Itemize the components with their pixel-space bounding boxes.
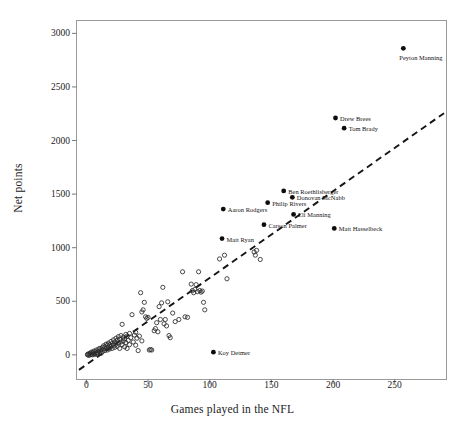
x-tick-100: 100	[203, 380, 217, 390]
point-label-aaron-rodgers: Aaron Rodgers	[228, 206, 268, 213]
x-axis-tick-marks	[86, 380, 394, 385]
data-point-eli-manning	[291, 212, 296, 217]
y-tick-2000: 2000	[36, 136, 70, 146]
point-label-koy-detmer: Koy Detmer	[218, 349, 250, 356]
y-tick-3000: 3000	[36, 28, 70, 38]
point-label-matt-ryan: Matt Ryan	[227, 235, 254, 242]
x-tick-200: 200	[326, 380, 340, 390]
y-axis-title: Net points	[12, 123, 24, 253]
data-point-carson-palmer	[262, 222, 267, 227]
plot-canvas	[0, 0, 465, 437]
data-point-drew-brees	[333, 116, 338, 121]
plot-frame	[77, 21, 447, 380]
point-label-drew-brees: Drew Brees	[340, 115, 371, 122]
x-axis-title: Games played in the NFL	[0, 403, 465, 415]
data-point-matt-ryan	[220, 236, 225, 241]
point-label-peyton-manning: Peyton Manning	[399, 54, 442, 61]
y-axis-tick-marks	[72, 33, 77, 354]
data-point-koy-detmer	[211, 350, 216, 355]
scatter-plot-figure: 050100150200250 050010001500200025003000…	[0, 0, 465, 437]
point-label-tom-brady: Tom Brady	[349, 125, 378, 132]
x-tick-50: 50	[143, 380, 153, 390]
data-point-philip-rivers	[265, 200, 270, 205]
y-tick-1000: 1000	[36, 243, 70, 253]
data-point-ben-roethlisberger	[281, 188, 286, 193]
x-tick-0: 0	[84, 380, 89, 390]
point-label-philip-rivers: Philip Rivers	[272, 199, 306, 206]
point-label-carson-palmer: Carson Palmer	[268, 221, 306, 228]
y-tick-1500: 1500	[36, 189, 70, 199]
point-label-eli-manning: Eli Manning	[298, 211, 331, 218]
y-tick-2500: 2500	[36, 82, 70, 92]
point-label-matt-hasselbeck: Matt Hasselbeck	[339, 225, 383, 232]
data-point-aaron-rodgers	[221, 207, 226, 212]
x-tick-150: 150	[264, 380, 278, 390]
y-tick-500: 500	[36, 296, 70, 306]
x-tick-250: 250	[388, 380, 402, 390]
data-point-tom-brady	[342, 126, 347, 131]
data-point-peyton-manning	[401, 46, 406, 51]
y-tick-0: 0	[36, 350, 70, 360]
data-point-matt-hasselbeck	[332, 226, 337, 231]
